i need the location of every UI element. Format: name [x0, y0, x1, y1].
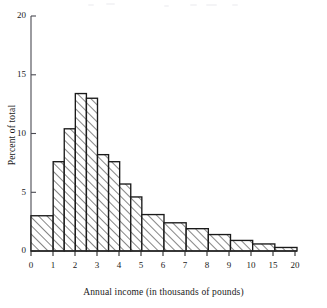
y-axis-title: Percent of total — [7, 90, 17, 180]
bar-2-2.5 — [75, 94, 86, 251]
bar-4-4.5 — [120, 184, 131, 251]
y-tick-label: 5 — [4, 188, 26, 197]
bar-4.5-5 — [131, 197, 142, 251]
bar-1.5-2 — [64, 129, 75, 251]
x-axis-title: Annual income (in thousands of pounds) — [0, 287, 327, 297]
bar-8-9 — [208, 235, 230, 251]
x-tick-label: 6 — [153, 261, 173, 270]
bar-6-7 — [164, 223, 186, 251]
y-tick-label: 15 — [4, 70, 26, 79]
histogram-bars — [31, 94, 297, 251]
x-tick-label: 20 — [285, 261, 305, 270]
bar-3-3.5 — [98, 155, 109, 251]
y-tick-label: 0 — [4, 246, 26, 255]
x-tick-label: 8 — [197, 261, 217, 270]
bar-0-1 — [31, 216, 53, 251]
bar-5-6 — [142, 215, 164, 251]
x-tick-label: 9 — [219, 261, 239, 270]
x-tick-label: 7 — [175, 261, 195, 270]
x-tick-label: 15 — [263, 261, 283, 270]
bar-2.5-3 — [86, 98, 97, 251]
histogram-figure: 20 15 10 5 0 0 1 2 3 4 5 6 7 8 9 10 15 2… — [0, 0, 327, 308]
x-tick-label: 1 — [43, 261, 63, 270]
x-tick-label: 0 — [21, 261, 41, 270]
x-tick-label: 10 — [241, 261, 261, 270]
bar-10-15 — [253, 244, 275, 251]
bar-3.5-4 — [109, 162, 120, 251]
bar-7-8 — [186, 229, 208, 251]
bar-9-10 — [231, 240, 253, 251]
x-tick-label: 3 — [87, 261, 107, 270]
x-tick-label: 2 — [65, 261, 85, 270]
x-axis-ticks — [31, 251, 295, 256]
bar-1-1.5 — [53, 162, 64, 251]
x-tick-label: 5 — [131, 261, 151, 270]
y-tick-label: 20 — [4, 11, 26, 20]
x-tick-label: 4 — [109, 261, 129, 270]
